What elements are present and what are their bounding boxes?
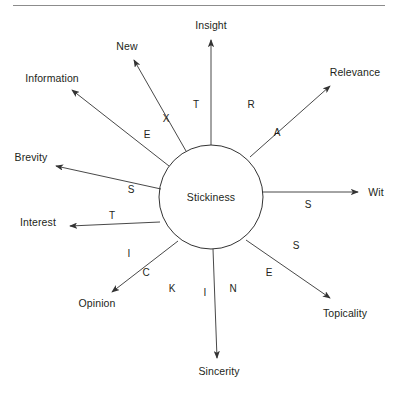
spoke-letter-relevance-2: R bbox=[247, 99, 254, 110]
spoke-arrow-brevity bbox=[56, 166, 161, 189]
spoke-arrow-new bbox=[134, 60, 186, 151]
spoke-letter-new: X bbox=[163, 113, 170, 124]
spoke-letter-sincerity: K bbox=[169, 283, 176, 294]
spoke-letter-opinion-2: C bbox=[142, 267, 149, 278]
spoke-letter-information: E bbox=[144, 129, 151, 140]
spoke-letter-interest: T bbox=[109, 210, 115, 221]
spoke-label-sincerity: Sincerity bbox=[198, 365, 239, 377]
spoke-letter-sincerity-3: N bbox=[229, 283, 236, 294]
spoke-label-information: Information bbox=[25, 72, 79, 84]
spoke-label-insight: Insight bbox=[195, 19, 227, 31]
spoke-letter-insight: T bbox=[193, 99, 199, 110]
spoke-letter-topicality: E bbox=[266, 267, 273, 278]
spoke-arrow-relevance bbox=[250, 86, 330, 157]
spoke-arrow-information bbox=[72, 90, 169, 166]
spoke-letter-brevity: S bbox=[128, 184, 135, 195]
spoke-letter-sincerity-2: I bbox=[204, 287, 207, 298]
spoke-label-interest: Interest bbox=[20, 216, 56, 228]
spoke-label-wit: Wit bbox=[368, 186, 383, 198]
spoke-label-brevity: Brevity bbox=[15, 151, 48, 163]
spoke-arrow-topicality bbox=[246, 240, 330, 298]
spoke-letter-wit: S bbox=[305, 199, 312, 210]
stickiness-radial-diagram: Stickiness InsightNewInformationBrevityI… bbox=[0, 0, 402, 393]
spoke-label-relevance: Relevance bbox=[330, 66, 381, 78]
spoke-arrow-interest bbox=[70, 222, 160, 226]
spoke-letter-opinion: I bbox=[128, 248, 131, 259]
spoke-label-opinion: Opinion bbox=[79, 297, 116, 309]
spoke-label-new: New bbox=[116, 40, 137, 52]
spoke-arrow-sincerity bbox=[213, 249, 217, 358]
spoke-letter-relevance: A bbox=[274, 127, 281, 138]
center-node-label: Stickiness bbox=[187, 191, 235, 203]
spoke-letter-topicality-2: S bbox=[293, 240, 300, 251]
spoke-label-topicality: Topicality bbox=[323, 307, 367, 319]
